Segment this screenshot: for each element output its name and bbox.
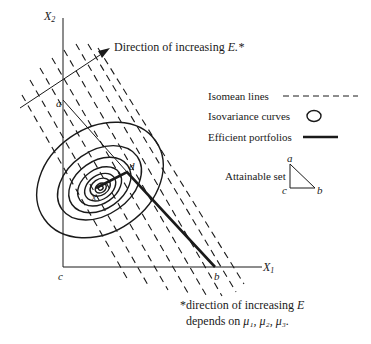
direction-arrow xyxy=(20,48,110,108)
point-a-label: a xyxy=(56,97,62,109)
legend-isovariance-label: Isovariance curves xyxy=(208,110,290,122)
point-c-label: c xyxy=(58,270,63,282)
isovariance-curves xyxy=(14,98,185,261)
legend-efficient-label: Efficient portfolios xyxy=(208,131,292,143)
point-d-label: d xyxy=(129,160,135,172)
point-b-label: b xyxy=(214,270,220,282)
center-x-label: x xyxy=(92,191,96,203)
x-axis-label: X1 xyxy=(263,261,274,273)
footnote-line1: *direction of increasing E xyxy=(180,299,304,311)
legend-triangle-b: b xyxy=(317,184,323,196)
attainable-set-triangle-icon xyxy=(290,164,315,188)
legend-attainable-label: Attainable set xyxy=(225,170,286,182)
arrowhead-icon xyxy=(98,48,110,58)
direction-arrow-label: Direction of increasing E.* xyxy=(114,41,244,53)
y-axis-label: X2 xyxy=(44,10,55,22)
footnote-line2: depends on μ₁, μ₂, μ₃. xyxy=(186,315,289,327)
legend-isomean-label: Isomean lines xyxy=(208,90,269,102)
legend-triangle-c: c xyxy=(282,184,287,196)
legend-triangle-a: a xyxy=(287,152,293,164)
legend-symbols xyxy=(283,96,358,188)
isovariance-legend-icon xyxy=(307,111,321,122)
